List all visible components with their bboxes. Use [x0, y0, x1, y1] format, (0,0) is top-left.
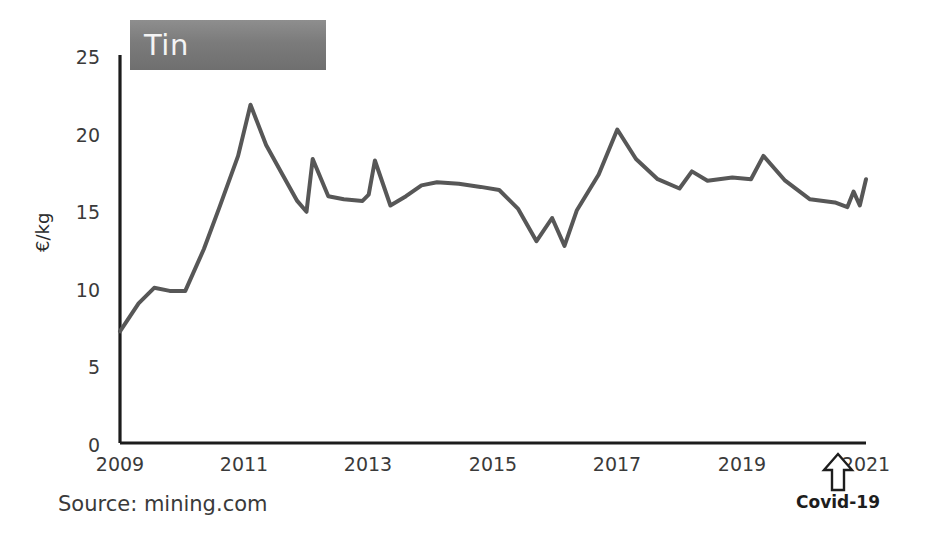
chart-page: Tin €/kg 25 20 15 10 5 0 2009 2011 2013 … [0, 0, 929, 548]
plot-area [0, 0, 929, 548]
up-arrow-icon [821, 452, 855, 492]
data-series-line-tin [120, 105, 866, 332]
covid-19-annotation-label: Covid-19 [778, 494, 898, 511]
source-note: Source: mining.com [58, 492, 267, 517]
